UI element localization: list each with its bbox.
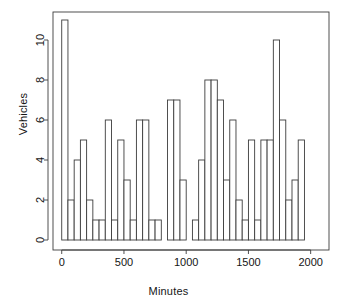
y-axis-tick-label: 2 xyxy=(34,197,46,203)
histogram-bar xyxy=(192,220,198,240)
y-axis-tick-label: 6 xyxy=(34,117,46,123)
histogram-bar xyxy=(230,120,236,240)
x-axis-tick-label: 2000 xyxy=(298,256,322,268)
histogram-bar xyxy=(267,140,273,240)
histogram-bar xyxy=(112,220,118,240)
histogram-bar xyxy=(236,200,242,240)
histogram-bar xyxy=(155,220,161,240)
histogram-bar xyxy=(211,80,217,240)
histogram-bar xyxy=(87,200,93,240)
histogram-bar xyxy=(292,180,298,240)
histogram-bar xyxy=(174,100,180,240)
x-axis-tick-label: 0 xyxy=(59,256,65,268)
x-axis-tick-label: 500 xyxy=(115,256,133,268)
histogram-bar xyxy=(136,120,142,240)
histogram-bar xyxy=(149,220,155,240)
histogram-bar xyxy=(118,140,124,240)
y-axis-label: Vehicles xyxy=(17,69,29,159)
x-axis-tick-label: 1500 xyxy=(236,256,260,268)
y-axis-tick-label: 4 xyxy=(34,157,46,163)
histogram-bar xyxy=(168,100,174,240)
histogram-bar xyxy=(224,180,230,240)
y-axis: 0246810 xyxy=(34,34,48,243)
histogram-bar xyxy=(286,200,292,240)
histogram-bar xyxy=(99,220,105,240)
histogram-bar xyxy=(255,220,261,240)
histogram-bar xyxy=(199,160,205,240)
x-axis-label: Minutes xyxy=(0,285,337,297)
y-axis-tick-label: 8 xyxy=(34,77,46,83)
histogram-bar xyxy=(105,120,111,240)
bars-group xyxy=(62,20,305,240)
histogram-bar xyxy=(248,140,254,240)
histogram-bar xyxy=(68,200,74,240)
x-axis-tick-label: 1000 xyxy=(174,256,198,268)
histogram-bar xyxy=(180,180,186,240)
histogram-bar xyxy=(261,140,267,240)
plot-area: 0500100015002000 0246810 xyxy=(0,0,337,307)
histogram-bar xyxy=(93,220,99,240)
histogram-bar xyxy=(124,180,130,240)
y-axis-tick-label: 0 xyxy=(34,237,46,243)
y-axis-tick-label: 10 xyxy=(34,34,46,46)
histogram-bar xyxy=(242,220,248,240)
x-axis: 0500100015002000 xyxy=(59,250,323,268)
histogram-bar xyxy=(280,120,286,240)
histogram-bar xyxy=(130,220,136,240)
histogram-bar xyxy=(143,120,149,240)
histogram-bar xyxy=(273,40,279,240)
histogram-bar xyxy=(74,160,80,240)
histogram-bar xyxy=(205,80,211,240)
histogram-chart: Vehicles Minutes 0500100015002000 024681… xyxy=(0,0,337,307)
histogram-bar xyxy=(217,100,223,240)
histogram-bar xyxy=(298,140,304,240)
histogram-bar xyxy=(62,20,68,240)
histogram-bar xyxy=(80,140,86,240)
